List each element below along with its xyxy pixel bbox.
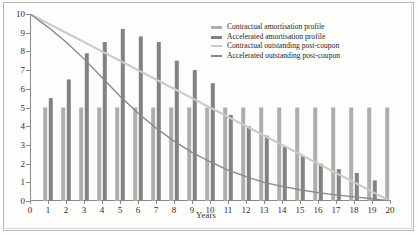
bar-contractual [241,108,245,202]
bar-contractual [97,108,101,202]
bar-accelerated [157,42,161,201]
x-axis-title: Years [196,210,216,220]
x-tick-label: 5 [118,206,123,215]
x-tick-label: 2 [64,206,69,215]
y-tick-label: 2 [21,159,26,168]
chart-legend: Contractual amortisation profileAccelera… [208,19,390,63]
legend-item-label: Accelerated outstanding post-coupon [227,51,340,60]
x-tick-label: 0 [28,206,33,215]
bar-accelerated [193,70,197,201]
bar-contractual [79,108,83,202]
legend-item-label: Contractual amortisation profile [227,22,324,31]
line-swatch-icon [210,41,223,50]
line-swatch-icon [210,51,223,60]
bar-accelerated [67,79,71,201]
bar-contractual [115,108,119,202]
x-tick-label: 16 [314,206,323,215]
x-tick-label: 9 [190,206,195,215]
bar-contractual [151,108,155,202]
bar-accelerated [247,126,251,201]
bar-contractual [385,108,389,202]
bar-accelerated [265,136,269,201]
bar-accelerated [229,115,233,201]
x-tick-label: 6 [136,206,141,215]
x-tick-label: 14 [278,206,287,215]
bar-contractual [277,108,281,202]
x-tick-label: 20 [386,206,395,215]
x-tick-label: 18 [350,206,359,215]
x-tick-label: 4 [100,206,105,215]
bar-accelerated [301,156,305,201]
bar-accelerated [49,98,53,201]
x-tick-label: 7 [154,206,159,215]
legend-item-label: Accelerated amortisation profile [227,32,325,41]
bar-accelerated [139,36,143,201]
x-tick [390,200,391,204]
bar-accelerated [373,180,377,201]
bar-accelerated [121,29,125,201]
legend-item: Accelerated amortisation profile [210,32,387,41]
y-tick-label: 0 [21,197,26,206]
bar-contractual [169,108,173,202]
x-tick-label: 11 [224,206,233,215]
y-tick-label: 7 [21,66,26,75]
bar-contractual [223,108,227,202]
legend-item: Accelerated outstanding post-coupon [210,51,387,60]
x-tick-label: 8 [172,206,177,215]
bar-accelerated [211,83,215,201]
y-tick-label: 4 [21,122,26,131]
bar-accelerated [319,164,323,201]
y-tick-label: 9 [21,28,26,37]
bar-accelerated [103,42,107,201]
x-tick-label: 19 [368,206,377,215]
y-tick-label: 8 [21,47,26,56]
x-tick-label: 1 [46,206,51,215]
y-tick-label: 6 [21,84,26,93]
legend-item-label: Contractual outstanding post-coupon [227,41,339,50]
y-tick-label: 3 [21,140,26,149]
bar-accelerated [175,61,179,201]
bar-contractual [205,108,209,202]
amortisation-chart-figure: 012345678910 012345678910111213141516171… [0,0,417,235]
y-tick-label: 10 [16,10,25,19]
bar-contractual [133,108,137,202]
bar-contractual [43,108,47,202]
y-tick-label: 1 [21,178,26,187]
bar-accelerated [283,147,287,201]
bar-contractual [259,108,263,202]
y-tick-label: 5 [21,103,26,112]
x-tick-label: 13 [260,206,269,215]
bar-contractual [313,108,317,202]
bar-swatch-icon [210,32,223,41]
legend-item: Contractual amortisation profile [210,22,387,31]
bar-swatch-icon [210,22,223,31]
bar-contractual [61,108,65,202]
bar-contractual [187,108,191,202]
x-tick-label: 15 [296,206,305,215]
x-tick-label: 17 [332,206,341,215]
bar-contractual [331,108,335,202]
x-tick-label: 12 [242,206,251,215]
bar-contractual [349,108,353,202]
legend-item: Contractual outstanding post-coupon [210,41,387,50]
bar-accelerated [85,53,89,201]
x-tick-label: 3 [82,206,87,215]
bar-contractual [367,108,371,202]
